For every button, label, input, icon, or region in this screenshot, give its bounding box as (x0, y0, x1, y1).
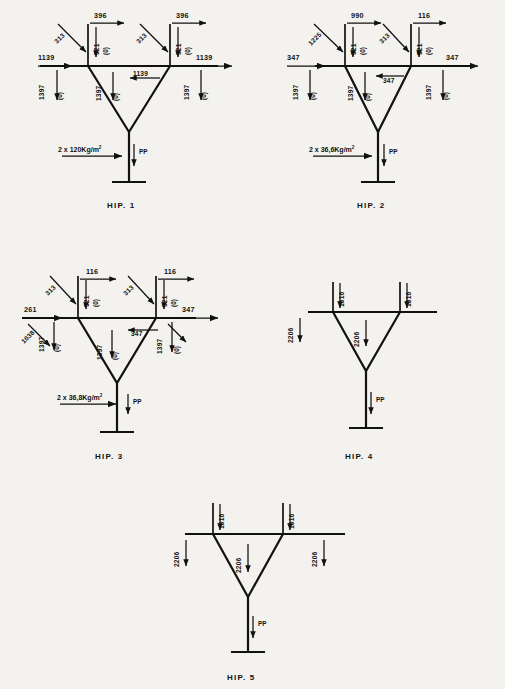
hip4-label-right-top-vertical: 1016 (405, 291, 412, 307)
hip1-label-left-top-horizontal: 396 (94, 11, 107, 20)
hip1-label-center-horizontal: 1139 (133, 70, 148, 77)
hip3-caption: HIP. 3 (95, 452, 123, 461)
hip1-label-self-weight: PP (139, 148, 148, 155)
hip3-v-web (78, 318, 156, 383)
hip1-label-center-zero: (0) (112, 93, 120, 101)
hip2-label-left-horizontal: 347 (287, 53, 300, 62)
hip3-label-surface-load: 2 x 36,8Kg/m2 (57, 393, 103, 402)
hip3-label-center-horizontal: 347 (131, 330, 143, 337)
hip3-label-right-column-zero: (0) (170, 299, 178, 307)
hip2-label-right-top-horizontal: 116 (418, 11, 430, 20)
hip2-label-left-support-zero: (0) (309, 92, 317, 100)
hip5-label-center-vertical: 2206 (235, 557, 242, 573)
hip4-label-left-support-vertical: 2206 (287, 327, 294, 343)
hip3-label-self-weight: PP (133, 398, 142, 405)
hip5-label-self-weight: PP (258, 620, 267, 627)
hip2-label-left-support-vertical: 1397 (292, 84, 299, 100)
hip2-label-left-column-zero: (0) (359, 47, 367, 55)
hip2-label-center-vertical: 1397 (347, 85, 354, 101)
hip1-label-left-column-zero: (0) (102, 47, 110, 55)
hip3-label-right-support-zero: (0) (173, 346, 181, 354)
hip2-label-right-diagonal: 313 (378, 31, 391, 44)
hip2-label-right-support-zero: (0) (442, 92, 450, 100)
hip3-label-right-horizontal: 347 (182, 305, 195, 314)
hip5-label-left-top-vertical: 1016 (218, 513, 225, 529)
hip3-label-left-horizontal: 261 (24, 305, 37, 314)
hip3-label-left-support-vertical: 1397 (38, 336, 45, 352)
hip3-label-center-vertical: 1397 (96, 344, 103, 360)
hip3-label-right-top-horizontal: 116 (164, 267, 176, 276)
hip3-label-center-zero: (0) (111, 352, 119, 360)
hip1-label-right-top-horizontal: 396 (176, 11, 189, 20)
hip4-label-left-top-vertical: 1016 (338, 291, 345, 307)
diagram-sheet: 1139 1139 313 313 396 396 521 (0) 521 (0… (0, 0, 505, 689)
hip1-label-right-horizontal: 1139 (196, 53, 212, 62)
hip2-caption: HIP. 2 (357, 201, 385, 210)
hip1-label-left-diagonal: 313 (53, 31, 66, 44)
hip3-arrow-right-outer-diagonal (168, 324, 186, 342)
hip5-caption: HIP. 5 (227, 673, 255, 682)
hip2-label-self-weight: PP (389, 148, 398, 155)
hip4-caption: HIP. 4 (345, 452, 373, 461)
diagram-hip-5: 1016 1016 2206 2206 2206 PP HIP. 5 (173, 503, 345, 682)
hip3-label-left-diagonal: 313 (44, 283, 57, 296)
hip5-label-right-top-vertical: 1016 (288, 513, 295, 529)
hip2-label-right-column-zero: (0) (425, 47, 433, 55)
hip5-label-left-support-vertical: 2206 (173, 551, 180, 567)
hip3-label-right-column-vertical: 521 (161, 295, 168, 307)
hip2-label-center-horizontal: 347 (383, 77, 395, 84)
diagram-hip-4: 1016 1016 2206 2206 PP HIP. 4 (287, 282, 437, 461)
hip2-label-right-horizontal: 347 (446, 53, 459, 62)
hip1-label-center-vertical: 1397 (95, 85, 102, 101)
hip3-label-right-support-vertical: 1397 (156, 338, 163, 354)
hip1-label-right-support-vertical: 1397 (183, 84, 190, 100)
hip2-label-right-column-vertical: 521 (416, 43, 423, 55)
hip2-label-left-diagonal: 1225 (307, 31, 323, 47)
hip5-label-right-support-vertical: 2206 (311, 551, 318, 567)
hip3-label-right-diagonal: 313 (122, 283, 135, 296)
hip1-label-right-column-zero: (0) (184, 47, 192, 55)
hip1-caption: HIP. 1 (107, 201, 135, 210)
hip2-label-left-top-horizontal: 990 (351, 11, 364, 20)
hip2-label-left-column-vertical: 521 (350, 43, 357, 55)
hip3-label-left-outer-diagonal: 1038 (20, 329, 36, 345)
hip3-label-left-support-zero: (0) (53, 344, 61, 352)
hip4-label-self-weight: PP (376, 396, 385, 403)
hip3-label-left-column-zero: (0) (92, 299, 100, 307)
hip2-label-right-support-vertical: 1397 (425, 84, 432, 100)
hip1-label-left-column-vertical: 521 (93, 43, 100, 55)
diagram-hip-3: 261 347 1038 313 313 116 116 521 (0) 521… (20, 267, 218, 461)
hip4-label-center-vertical: 2206 (353, 331, 360, 347)
diagram-hip-2: 347 347 1225 313 990 116 521 (0) 521 (0)… (287, 11, 478, 210)
hip1-label-right-column-vertical: 521 (175, 43, 182, 55)
diagram-hip-1: 1139 1139 313 313 396 396 521 (0) 521 (0… (38, 11, 232, 210)
hip1-label-left-support-zero: (0) (56, 92, 64, 100)
hip2-label-surface-load: 2 x 36,6Kg/m2 (309, 145, 355, 154)
hip1-label-right-diagonal: 313 (135, 31, 148, 44)
hip1-label-left-horizontal: 1139 (38, 53, 54, 62)
hip3-label-left-column-vertical: 521 (83, 295, 90, 307)
hip2-label-center-zero: (0) (364, 93, 372, 101)
hip1-label-left-support-vertical: 1397 (38, 84, 45, 100)
hip3-label-left-top-horizontal: 116 (86, 267, 98, 276)
hip1-label-surface-load: 2 x 120Kg/m2 (58, 145, 102, 154)
hip1-label-right-support-zero: (0) (200, 92, 208, 100)
